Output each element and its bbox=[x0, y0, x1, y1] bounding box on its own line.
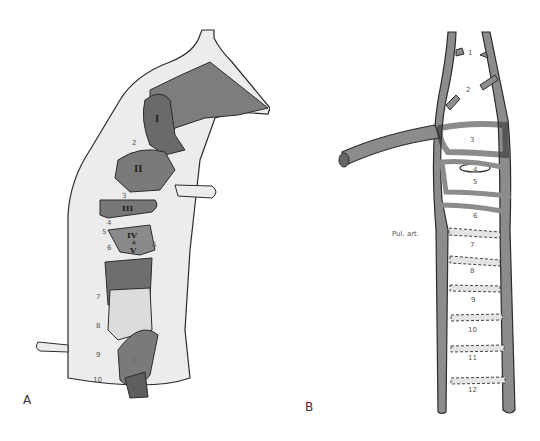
vessel-num-1: 1 bbox=[468, 49, 472, 57]
arch-6 bbox=[442, 205, 508, 212]
external-branch bbox=[342, 125, 440, 165]
pulmonary-artery-label: Pul. art. bbox=[392, 230, 419, 238]
branch-iii bbox=[175, 185, 216, 198]
arch-num-6-right: 6 bbox=[152, 241, 157, 249]
vessel-num-10: 10 bbox=[468, 326, 477, 334]
label-roman-v: V bbox=[129, 245, 137, 255]
arch-num-10: 10 bbox=[93, 376, 102, 384]
label-roman-iii: III bbox=[122, 203, 133, 213]
arch-num-8: 8 bbox=[96, 322, 100, 330]
vessel-opening bbox=[339, 153, 349, 167]
label-roman-ii: II bbox=[134, 164, 142, 174]
right-trunk bbox=[482, 32, 515, 413]
arch-num-9: 9 bbox=[96, 351, 100, 359]
branch-1-right bbox=[480, 52, 488, 58]
panel-a: I II III IV + V L 2 3 4 5 6 6 7 8 9 10 A bbox=[0, 0, 270, 441]
vessel-num-5: 5 bbox=[473, 178, 477, 186]
side-branch bbox=[36, 342, 68, 352]
branch-1-left bbox=[456, 48, 464, 56]
arch-num-3: 3 bbox=[122, 192, 126, 200]
vessel-num-6: 6 bbox=[473, 212, 478, 220]
vessel-num-11: 11 bbox=[468, 354, 477, 362]
arch-num-4: 4 bbox=[107, 219, 112, 227]
vessel-num-4: 4 bbox=[473, 166, 478, 174]
panel-letter-a: A bbox=[23, 393, 31, 407]
dashed-arches bbox=[449, 228, 505, 384]
arch-num-2: 2 bbox=[132, 139, 136, 147]
vessel-num-12: 12 bbox=[468, 386, 477, 394]
arch-num-7: 7 bbox=[96, 293, 100, 301]
vessel-num-8: 8 bbox=[470, 267, 474, 275]
branch-2-left bbox=[446, 95, 460, 110]
panel-a-illustration: I II III IV + V L 2 3 4 5 6 6 7 8 9 10 bbox=[0, 0, 270, 441]
arch-num-6-left: 6 bbox=[107, 244, 112, 252]
label-roman-i: I bbox=[155, 114, 159, 124]
vessel-num-7: 7 bbox=[470, 241, 474, 249]
vessel-num-9: 9 bbox=[471, 296, 475, 304]
panel-letter-b: B bbox=[305, 400, 313, 414]
left-trunk bbox=[433, 32, 456, 414]
vessel-num-2: 2 bbox=[466, 86, 470, 94]
arch-num-5: 5 bbox=[102, 228, 106, 236]
vessel-num-3: 3 bbox=[470, 136, 474, 144]
label-l: L bbox=[133, 357, 137, 365]
panel-b-illustration: 1 2 3 4 5 6 7 8 9 10 11 12 Pul. art. bbox=[270, 0, 540, 441]
panel-b: 1 2 3 4 5 6 7 8 9 10 11 12 Pul. art. B bbox=[270, 0, 540, 441]
